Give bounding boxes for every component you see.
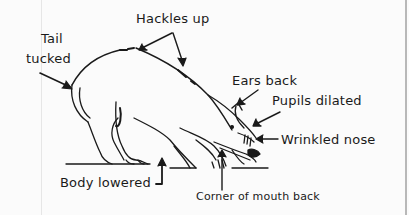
label-tail-line2: tucked — [26, 52, 71, 66]
label-nose: Wrinkled nose — [281, 133, 376, 147]
dog-body-language-diagram: Tail tucked Hackles up Ears back Pupils … — [0, 0, 409, 215]
label-tail-line1: Tail — [41, 32, 63, 46]
label-pupils: Pupils dilated — [272, 94, 362, 108]
label-ears: Ears back — [232, 74, 297, 88]
eye — [231, 126, 234, 129]
label-body: Body lowered — [60, 176, 151, 190]
label-hackles: Hackles up — [136, 12, 209, 26]
ear-inner — [235, 106, 244, 128]
label-mouth: Corner of mouth back — [196, 190, 320, 204]
